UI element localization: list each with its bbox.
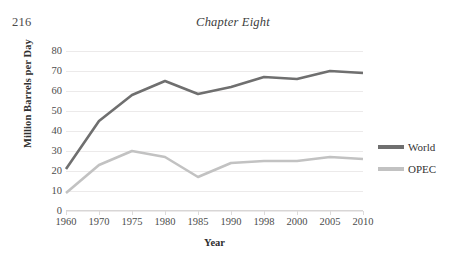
x-axis-tick-label: 1975	[122, 216, 143, 227]
x-axis-tickmark	[132, 211, 133, 215]
x-axis-tickmark	[198, 211, 199, 215]
x-axis-tickmark	[297, 211, 298, 215]
x-axis-tick-label: 2000	[287, 216, 308, 227]
x-axis-tickmark	[330, 211, 331, 215]
x-axis-title: Year	[66, 237, 363, 248]
running-head: Chapter Eight	[0, 15, 466, 30]
series-line-opec	[66, 151, 363, 193]
x-axis-tick-label: 1990	[221, 216, 242, 227]
series-lines	[66, 51, 363, 211]
legend-swatch-opec	[378, 167, 404, 171]
x-axis-tickmark	[165, 211, 166, 215]
x-axis-tickmark	[264, 211, 265, 215]
y-axis-tick-label: 0	[22, 206, 62, 216]
gridline	[66, 211, 363, 212]
book-page: 216 Chapter Eight 80706050403020100 Mill…	[0, 0, 466, 265]
x-axis-tick-label: 1985	[188, 216, 209, 227]
x-axis-tick-label: 1960	[56, 216, 77, 227]
x-axis-tickmark	[99, 211, 100, 215]
plot-area	[66, 51, 363, 211]
legend-item-opec[interactable]: OPEC	[378, 158, 464, 180]
x-axis-ticks: 1960197019751980198519901998200020052010	[66, 216, 363, 230]
legend-item-world[interactable]: World	[378, 136, 464, 158]
x-axis-tick-label: 1998	[254, 216, 275, 227]
series-line-world	[66, 71, 363, 169]
legend-swatch-world	[378, 145, 404, 149]
chart-legend: WorldOPEC	[378, 136, 464, 180]
x-axis-tick-label: 2005	[320, 216, 341, 227]
x-axis-tickmark	[231, 211, 232, 215]
legend-label: World	[408, 141, 435, 153]
y-axis-title: Million Barrels per Day	[22, 19, 33, 169]
x-axis-tickmark	[363, 211, 364, 215]
x-axis-tick-label: 1970	[89, 216, 110, 227]
x-axis-tick-label: 2010	[353, 216, 374, 227]
y-axis-tick-label: 10	[22, 186, 62, 196]
legend-label: OPEC	[408, 163, 436, 175]
chart-figure: 80706050403020100 Million Barrels per Da…	[0, 40, 466, 265]
x-axis-tickmark	[66, 211, 67, 215]
x-axis-tick-label: 1980	[155, 216, 176, 227]
